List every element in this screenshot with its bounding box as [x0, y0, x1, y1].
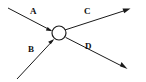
vector-d-line — [66, 37, 123, 66]
vector-b — [17, 39, 54, 79]
vector-c-line — [65, 10, 126, 30]
vector-c-arrowhead — [123, 9, 131, 14]
vector-label-a: A — [30, 7, 37, 16]
junction-node-circle — [52, 26, 66, 40]
vector-b-arrowhead — [48, 39, 54, 44]
vector-b-line — [17, 41, 53, 79]
vector-label-c: C — [84, 7, 91, 16]
diagram-canvas — [0, 0, 146, 82]
vector-label-d: D — [85, 42, 92, 51]
vector-d-arrowhead — [120, 62, 128, 69]
vector-diagram: A B C D — [0, 0, 146, 82]
vector-label-b: B — [28, 45, 34, 54]
vector-d — [66, 37, 128, 69]
vector-c — [65, 9, 131, 30]
